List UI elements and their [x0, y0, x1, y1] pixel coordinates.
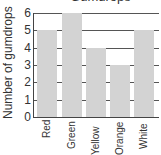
- y-axis: [33, 13, 34, 118]
- y-tick-label: 5: [22, 24, 31, 36]
- y-tick-label: 3: [22, 59, 31, 71]
- bar-white: [134, 30, 154, 117]
- plot-area: 0123456: [33, 13, 159, 117]
- y-tick-label: 1: [22, 94, 31, 106]
- x-tick-label: Orange: [114, 121, 125, 154]
- y-axis-label: Number of gumdrops: [1, 9, 17, 119]
- y-tick-label: 4: [22, 42, 31, 54]
- y-tick-label: 0: [22, 111, 31, 123]
- x-tick-label: Green: [66, 121, 77, 149]
- x-axis: [33, 117, 159, 118]
- x-tick-label: White: [138, 123, 149, 149]
- bar-red: [37, 30, 57, 117]
- bar-yellow: [86, 48, 106, 117]
- bar-green: [62, 13, 82, 117]
- x-tick-label: Red: [41, 119, 52, 137]
- chart-title: Gumdrops: [40, 0, 161, 4]
- bar-orange: [110, 65, 130, 117]
- y-tick-label: 2: [22, 76, 31, 88]
- x-tick-label: Yellow: [90, 126, 101, 155]
- y-tick-label: 6: [22, 7, 31, 19]
- gridline: [33, 13, 159, 14]
